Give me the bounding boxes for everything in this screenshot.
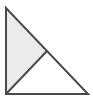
right-triangle-figure — [0, 0, 93, 101]
figure-container — [0, 0, 93, 101]
